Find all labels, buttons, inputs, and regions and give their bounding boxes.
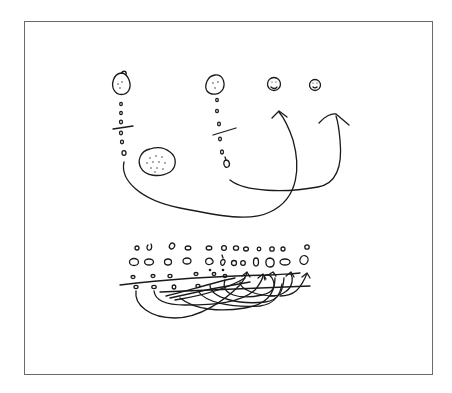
sketch-canvas [0,0,452,393]
arrowhead-target-2 [319,114,349,125]
top-arrows [123,111,349,217]
arrow-middle-to-target-2 [230,116,341,191]
arrow-left-to-target-1 [123,112,296,217]
target-node-1 [268,78,281,91]
middle-head-node [206,75,224,94]
bead-row-4 [134,284,200,289]
target-node-2 [310,80,321,91]
bottom-section [120,242,310,318]
middle-divider-tick [213,128,236,135]
middle-bead-chain [213,98,236,167]
dotted-blob [139,148,175,176]
bead-row-1 [135,242,309,251]
left-group [113,71,176,175]
left-divider-tick [113,126,133,129]
tangled-arrows [136,272,310,318]
arrowhead-target-1 [272,111,287,118]
middle-group [206,75,236,167]
left-head-node [113,71,130,94]
left-bead-chain [113,102,133,155]
bead-row-2 [130,254,310,267]
